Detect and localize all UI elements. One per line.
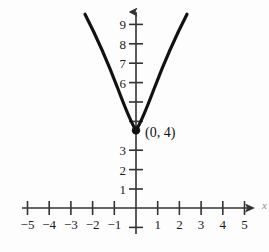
vertex-point-marker <box>132 126 140 134</box>
vertex-coordinate-label: (0, 4) <box>145 126 175 140</box>
y-tick-label-9: 9 <box>120 18 127 31</box>
parabola-graph-figure: −5 −4 −3 −2 −1 1 2 3 4 5 9 8 7 6 3 2 1 (… <box>0 0 269 252</box>
x-tick-label--1: −1 <box>107 218 121 231</box>
x-tick-label--3: −3 <box>64 218 78 231</box>
y-tick-label-7: 7 <box>120 57 127 70</box>
y-tick-label-1: 1 <box>120 183 127 196</box>
x-axis-label: x <box>262 200 267 211</box>
x-tick-label-5: 5 <box>241 218 248 231</box>
x-tick-label-2: 2 <box>176 218 183 231</box>
y-tick-label-3: 3 <box>120 144 127 157</box>
x-tick-label--5: −5 <box>21 218 35 231</box>
x-tick-label-4: 4 <box>220 218 227 231</box>
y-tick-label-2: 2 <box>120 163 127 176</box>
x-tick-label--4: −4 <box>42 218 56 231</box>
y-tick-label-8: 8 <box>120 37 127 50</box>
x-tick-label-1: 1 <box>154 218 161 231</box>
x-tick-label-3: 3 <box>198 218 205 231</box>
y-tick-label-6: 6 <box>120 76 127 89</box>
x-tick-label--2: −2 <box>86 218 100 231</box>
plot-canvas <box>0 0 269 252</box>
